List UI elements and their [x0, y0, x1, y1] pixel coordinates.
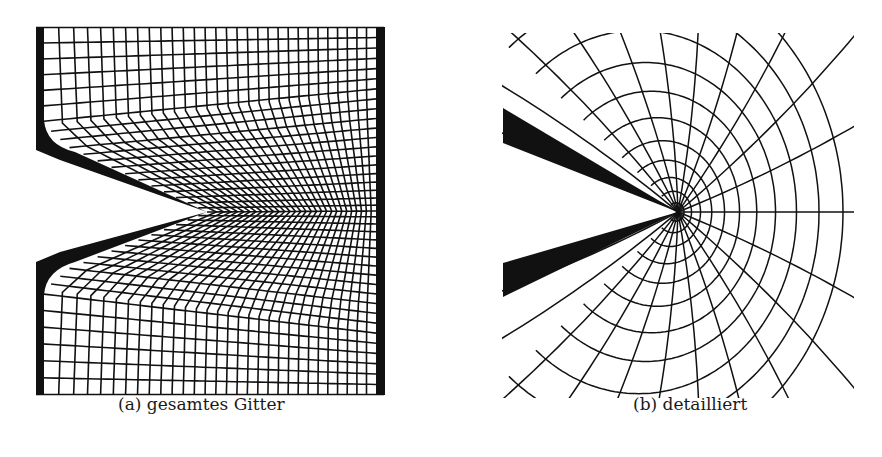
figure-panel-detail-mesh — [470, 0, 882, 400]
full-mesh-graphic — [0, 0, 420, 400]
detail-mesh-graphic — [470, 0, 882, 400]
figure-panel-full-mesh — [0, 0, 420, 400]
caption-detail-mesh: (b) detailliert — [633, 394, 747, 414]
caption-full-mesh: (a) gesamtes Gitter — [118, 394, 285, 414]
